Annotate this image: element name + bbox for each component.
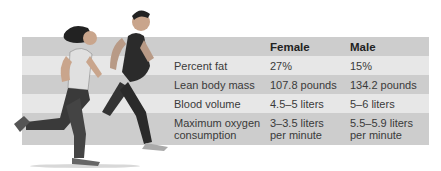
runners-illustration: [0, 0, 200, 171]
male-value: 15%: [350, 60, 372, 72]
male-value-line1: 5.5–5.9 liters: [350, 117, 413, 129]
header-male: Male: [350, 41, 376, 53]
female-value: 27%: [270, 60, 292, 72]
female-value: 4.5–5 liters: [270, 98, 324, 110]
male-value: 134.2 pounds: [350, 79, 417, 91]
header-female: Female: [270, 41, 310, 53]
male-runner-icon: [102, 10, 168, 151]
female-runner-icon: [14, 26, 102, 166]
female-value: 107.8 pounds: [270, 79, 337, 91]
male-value: 5–6 liters: [350, 98, 395, 110]
female-value-line2: per minute: [270, 129, 322, 141]
female-value-line1: 3–3.5 liters: [270, 117, 324, 129]
male-value-line2: per minute: [350, 129, 402, 141]
